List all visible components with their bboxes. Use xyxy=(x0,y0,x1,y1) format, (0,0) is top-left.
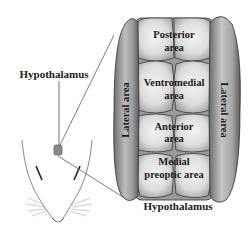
hypothalamus-diagram: Hypothalamus Posterior area Ventromedial… xyxy=(0,0,251,242)
medial-preoptic-label-line2: preoptic area xyxy=(144,169,204,180)
hypothalamus-marker xyxy=(54,145,62,155)
rat-snout xyxy=(52,218,64,222)
rat-eye-left xyxy=(36,166,42,180)
posterior-area-label-line2: area xyxy=(164,42,184,53)
anterior-area-label-line2: area xyxy=(164,133,184,144)
projection-line-top xyxy=(60,35,114,145)
diagram-title: Hypothalamus xyxy=(143,200,213,212)
medial-preoptic-label-line1: Medial xyxy=(158,156,190,167)
ventromedial-area-label-line1: Ventromedial xyxy=(144,77,205,88)
ventromedial-area-label-line2: area xyxy=(164,90,184,101)
lateral-area-left-label: Lateral area xyxy=(120,82,131,138)
whiskers-left xyxy=(26,198,46,216)
anterior-area-label-line1: Anterior xyxy=(154,121,193,132)
lateral-area-right-label: Lateral area xyxy=(219,82,230,138)
pointer-label: Hypothalamus xyxy=(19,68,89,80)
posterior-area-label-line1: Posterior xyxy=(153,29,195,40)
